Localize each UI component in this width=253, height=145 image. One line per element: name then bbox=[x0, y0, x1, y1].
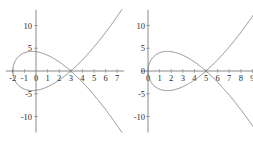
x-tick-label: 0 bbox=[34, 73, 38, 83]
x-tick-label: 5 bbox=[92, 73, 96, 83]
y-tick-label: -10 bbox=[21, 112, 32, 122]
x-tick-label: 9 bbox=[250, 73, 253, 83]
x-tick-label: 2 bbox=[169, 73, 173, 83]
y-tick-label: 10 bbox=[137, 21, 146, 31]
right-plot: 0123456789-10-50510 bbox=[126, 0, 253, 145]
x-tick-label: -1 bbox=[21, 73, 28, 83]
x-tick-label: 8 bbox=[239, 73, 243, 83]
x-tick-label: 7 bbox=[227, 73, 231, 83]
elliptic-curve-figure: -2-101234567-10-5510 0123456789-10-50510 bbox=[0, 0, 253, 145]
y-tick-label: 0 bbox=[141, 66, 145, 76]
x-tick-label: 3 bbox=[69, 73, 73, 83]
curve-branch-upper bbox=[71, 10, 122, 71]
x-tick-label: 1 bbox=[157, 73, 161, 83]
y-tick-label: -10 bbox=[134, 112, 145, 122]
curve-branch-upper bbox=[206, 10, 253, 71]
x-tick-label: 3 bbox=[181, 73, 185, 83]
y-tick-label: 5 bbox=[141, 43, 145, 53]
left-plot-canvas: -2-101234567-10-5510 bbox=[0, 0, 126, 145]
left-plot: -2-101234567-10-5510 bbox=[0, 0, 126, 145]
y-tick-label: -5 bbox=[138, 89, 145, 99]
x-tick-label: 6 bbox=[103, 73, 107, 83]
x-tick-label: 5 bbox=[204, 73, 208, 83]
y-tick-label: 10 bbox=[24, 21, 33, 31]
x-tick-label: 7 bbox=[115, 73, 119, 83]
right-plot-canvas: 0123456789-10-50510 bbox=[126, 0, 253, 145]
x-tick-label: 1 bbox=[45, 73, 49, 83]
